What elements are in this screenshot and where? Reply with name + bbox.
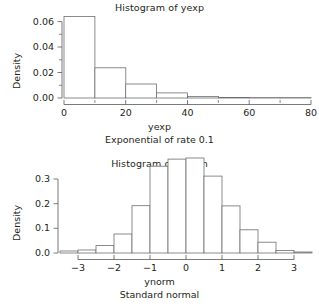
svg-text:0.02: 0.02 — [33, 67, 54, 78]
svg-text:0: 0 — [183, 262, 189, 273]
svg-text:0.0: 0.0 — [35, 247, 50, 258]
svg-text:−3: −3 — [71, 262, 85, 273]
panel-histogram-yexp: Histogram of yexp Density 0.00 0.02 0.04… — [0, 0, 319, 153]
bars-yexp — [64, 16, 311, 98]
svg-text:2: 2 — [255, 262, 261, 273]
svg-text:3: 3 — [291, 262, 297, 273]
x-axis-yexp: 0 20 40 60 80 — [61, 100, 317, 118]
y-axis-yexp: 0.00 0.02 0.04 0.06 — [33, 16, 62, 103]
svg-text:80: 80 — [305, 107, 317, 118]
x-axis-label-yexp: yexp — [0, 121, 319, 132]
svg-text:60: 60 — [243, 107, 255, 118]
y-axis-ynorm: 0.0 0.1 0.2 0.3 — [35, 173, 58, 258]
caption-yexp: Exponential of rate 0.1 — [0, 134, 319, 145]
svg-text:0.1: 0.1 — [35, 222, 50, 233]
x-axis-ynorm: −3 −2 −1 0 1 2 3 — [71, 255, 297, 273]
bars-ynorm — [60, 158, 312, 253]
x-axis-label-ynorm: ynorm — [0, 276, 319, 287]
svg-text:0.04: 0.04 — [33, 41, 54, 52]
svg-text:−1: −1 — [143, 262, 157, 273]
svg-text:20: 20 — [120, 107, 132, 118]
svg-text:0.06: 0.06 — [33, 16, 54, 27]
svg-text:1: 1 — [219, 262, 225, 273]
svg-text:0.2: 0.2 — [35, 198, 50, 209]
svg-text:0.3: 0.3 — [35, 173, 50, 184]
panel-histogram-ynorm: Histogram of ynorm Density 0.0 0.1 0.2 0… — [0, 153, 319, 306]
figure-two-histograms: Histogram of yexp Density 0.00 0.02 0.04… — [0, 0, 319, 306]
svg-text:−2: −2 — [107, 262, 121, 273]
svg-text:0.00: 0.00 — [33, 92, 54, 103]
svg-text:0: 0 — [61, 107, 67, 118]
caption-ynorm: Standard normal — [0, 289, 319, 300]
svg-text:40: 40 — [181, 107, 193, 118]
